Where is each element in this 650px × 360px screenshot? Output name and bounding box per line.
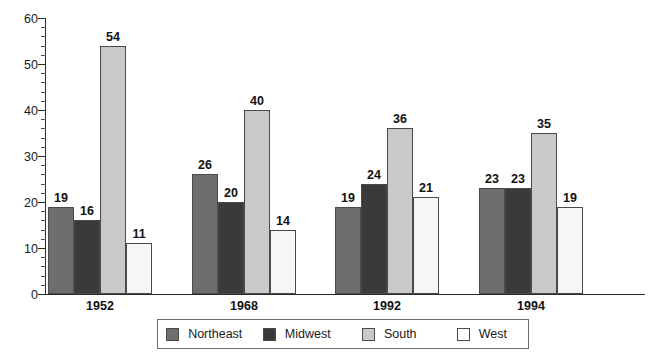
legend-label: Midwest [285, 328, 331, 341]
y-tick-label: 30 [8, 151, 38, 164]
bar-west-1994: 19 [557, 207, 583, 294]
y-tick-major [38, 110, 46, 111]
legend-swatch-northeast-icon [166, 328, 179, 341]
y-tick-minor [41, 257, 46, 258]
bar-midwest-1952: 16 [74, 220, 100, 294]
bar-value-label: 21 [419, 182, 433, 195]
legend-item-west[interactable]: West [436, 328, 529, 341]
x-axis-label-1952: 1952 [48, 300, 152, 313]
x-axis-label-1968: 1968 [192, 300, 296, 313]
y-tick-label: 60 [8, 13, 38, 26]
bar-west-1952: 11 [126, 243, 152, 294]
bar-value-label: 35 [537, 118, 551, 131]
y-tick-label: 20 [8, 197, 38, 210]
y-tick-minor [41, 193, 46, 194]
bar-chart: 0102030405060 19165411195226204014196819… [0, 0, 650, 360]
y-tick-major [38, 248, 46, 249]
y-tick-minor [41, 174, 46, 175]
y-tick-minor [41, 73, 46, 74]
y-tick-minor [41, 92, 46, 93]
bar-west-1992: 21 [413, 197, 439, 294]
bar-northeast-1994: 23 [479, 188, 505, 294]
bar-group: 19243621 [335, 18, 439, 294]
y-tick-minor [41, 211, 46, 212]
y-tick-major [38, 202, 46, 203]
y-tick-minor [41, 27, 46, 28]
legend-item-northeast[interactable]: Northeast [158, 328, 251, 341]
y-tick-minor [41, 266, 46, 267]
y-tick-minor [41, 230, 46, 231]
bar-midwest-1994: 23 [505, 188, 531, 294]
bar-value-label: 26 [198, 159, 212, 172]
bar-value-label: 23 [511, 173, 525, 186]
legend-swatch-south-icon [362, 328, 375, 341]
y-tick-minor [41, 36, 46, 37]
bar-northeast-1992: 19 [335, 207, 361, 294]
y-tick-major [38, 18, 46, 19]
legend-item-midwest[interactable]: Midwest [251, 328, 344, 341]
y-tick-label: 50 [8, 59, 38, 72]
bar-south-1994: 35 [531, 133, 557, 294]
x-axis-label-1994: 1994 [479, 300, 583, 313]
bar-northeast-1968: 26 [192, 174, 218, 294]
bar-midwest-1992: 24 [361, 184, 387, 294]
bar-value-label: 24 [367, 169, 381, 182]
y-tick-major [38, 64, 46, 65]
legend-label: South [384, 328, 417, 341]
y-tick-minor [41, 119, 46, 120]
bar-value-label: 23 [485, 173, 499, 186]
y-tick-minor [41, 239, 46, 240]
y-tick-minor [41, 147, 46, 148]
y-tick-minor [41, 46, 46, 47]
bar-group: 26204014 [192, 18, 296, 294]
bar-south-1968: 40 [244, 110, 270, 294]
y-tick-minor [41, 276, 46, 277]
y-tick-minor [41, 128, 46, 129]
bar-south-1992: 36 [387, 128, 413, 294]
legend-swatch-west-icon [457, 328, 470, 341]
y-tick-major [38, 294, 46, 295]
bar-group: 19165411 [48, 18, 152, 294]
y-tick-minor [41, 165, 46, 166]
legend-swatch-midwest-icon [263, 328, 276, 341]
bar-value-label: 19 [341, 192, 355, 205]
y-tick-major [38, 156, 46, 157]
chart-legend: NortheastMidwestSouthWest [157, 319, 529, 349]
y-tick-minor [41, 138, 46, 139]
legend-item-south[interactable]: South [343, 328, 436, 341]
bar-value-label: 54 [106, 31, 120, 44]
plot-area: 1916541119522620401419681924362119922323… [45, 18, 645, 295]
bar-value-label: 19 [54, 192, 68, 205]
bar-value-label: 16 [80, 205, 94, 218]
y-axis-labels: 0102030405060 [0, 18, 38, 295]
bar-midwest-1968: 20 [218, 202, 244, 294]
bar-west-1968: 14 [270, 230, 296, 294]
bar-group: 23233519 [479, 18, 583, 294]
y-tick-minor [41, 285, 46, 286]
x-axis-label-1992: 1992 [335, 300, 439, 313]
y-tick-minor [41, 82, 46, 83]
bar-value-label: 20 [224, 187, 238, 200]
y-tick-minor [41, 55, 46, 56]
legend-label: Northeast [188, 328, 242, 341]
y-tick-minor [41, 220, 46, 221]
bar-value-label: 19 [563, 192, 577, 205]
legend-label: West [479, 328, 507, 341]
bar-value-label: 11 [132, 228, 145, 241]
y-tick-minor [41, 101, 46, 102]
bar-south-1952: 54 [100, 46, 126, 294]
y-tick-minor [41, 184, 46, 185]
bar-northeast-1952: 19 [48, 207, 74, 294]
y-tick-label: 10 [8, 243, 38, 256]
y-tick-label: 0 [8, 289, 38, 302]
bar-value-label: 40 [250, 95, 264, 108]
bar-value-label: 14 [276, 215, 290, 228]
x-axis-line [45, 294, 645, 295]
bar-value-label: 36 [393, 113, 407, 126]
y-tick-label: 40 [8, 105, 38, 118]
